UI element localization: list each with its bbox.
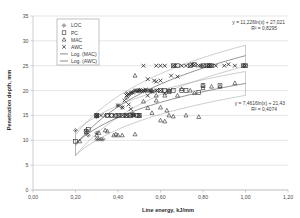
y-tick-label: 20 xyxy=(23,88,29,94)
x-tick-label: 1,00 xyxy=(240,194,250,200)
legend-label-pc: PC xyxy=(71,30,78,36)
x-tick-label: 1,20 xyxy=(283,194,293,200)
legend-label-awc: AWC xyxy=(71,44,83,50)
legend-label-logawc: Log. (AWC) xyxy=(71,58,97,64)
legend-label-mac: MAC xyxy=(71,37,83,43)
x-tick-label: 0,40 xyxy=(113,194,123,200)
y-tick-label: 10 xyxy=(23,137,29,143)
x-tick-label: 0,80 xyxy=(198,194,208,200)
y-tick-label: 35 xyxy=(23,13,29,19)
awc-equation: y = 11,226ln(x) + 27,021 xyxy=(232,20,285,25)
y-tick-label: 0 xyxy=(26,187,29,193)
x-axis-title: Line energy, kJ/mm xyxy=(142,207,194,213)
chart-container: 0,000,200,400,600,801,001,20 05101520253… xyxy=(0,0,300,218)
awc-equation-r2: R² = 0,8295 xyxy=(251,26,277,31)
legend-label-logmac: Log. (MAC) xyxy=(71,51,97,57)
penetration-depth-scatter-chart: 0,000,200,400,600,801,001,20 05101520253… xyxy=(0,0,300,218)
chart-legend: LOCPCMACAWCLog. (MAC)Log. (AWC) xyxy=(57,19,99,65)
y-tick-label: 15 xyxy=(23,112,29,118)
x-tick-label: 0,00 xyxy=(28,194,38,200)
y-tick-label: 25 xyxy=(23,63,29,69)
x-tick-label: 0,60 xyxy=(155,194,165,200)
y-tick-label: 5 xyxy=(26,162,29,168)
y-tick-label: 30 xyxy=(23,38,29,44)
legend-label-loc: LOC xyxy=(71,22,82,28)
mac-equation: y = 7,4616ln(x) + 21,43 xyxy=(235,101,286,106)
x-tick-label: 0,20 xyxy=(70,194,80,200)
y-axis-title: Penetration depth, mm xyxy=(6,70,12,131)
mac-equation-r2: R² = 0,4074 xyxy=(251,107,277,112)
